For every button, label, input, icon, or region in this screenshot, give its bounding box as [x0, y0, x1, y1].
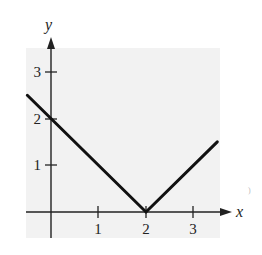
x-tick-label: 2	[142, 221, 150, 237]
x-tick-label: 1	[94, 221, 102, 237]
plot-background	[26, 48, 220, 238]
y-tick-label: 1	[34, 157, 42, 173]
x-axis-label: x	[235, 203, 243, 220]
y-tick-label: 2	[34, 111, 42, 127]
y-tick-label: 3	[34, 64, 42, 80]
y-axis-label: y	[43, 16, 53, 34]
x-tick-label: 3	[189, 221, 197, 237]
stray-mark: )	[248, 186, 251, 195]
graph: x y 1 2 3 1 2 3 )	[0, 0, 262, 255]
x-axis-arrow-icon	[220, 208, 232, 216]
y-axis-arrow-icon	[47, 37, 55, 49]
